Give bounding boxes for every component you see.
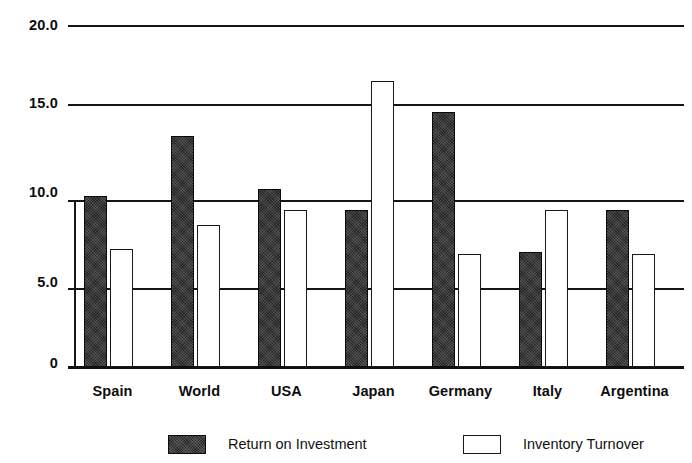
bar-argentina-roi bbox=[606, 210, 629, 367]
bar-world-turnover bbox=[197, 225, 220, 367]
bar-argentina-turnover bbox=[632, 254, 655, 367]
bar-germany-roi bbox=[432, 112, 455, 367]
chart-legend: Return on Investment Inventory Turnover bbox=[0, 432, 692, 458]
x-tick-label-italy: Italy bbox=[504, 384, 591, 399]
bar-japan-turnover bbox=[371, 81, 394, 367]
legend-swatch-icon-return-on-investment bbox=[168, 435, 206, 454]
x-tick-label-argentina: Argentina bbox=[591, 384, 678, 399]
legend-label-inventory-turnover: Inventory Turnover bbox=[523, 437, 644, 452]
x-tick-label-usa: USA bbox=[243, 384, 330, 399]
x-tick-label-spain: Spain bbox=[69, 384, 156, 399]
bar-germany-turnover bbox=[458, 254, 481, 367]
legend-label-return-on-investment: Return on Investment bbox=[228, 437, 367, 452]
x-tick-label-world: World bbox=[156, 384, 243, 399]
bar-spain-turnover bbox=[110, 249, 133, 367]
bar-italy-turnover bbox=[545, 210, 568, 367]
bar-usa-turnover bbox=[284, 210, 307, 367]
legend-item-inventory-turnover: Inventory Turnover bbox=[463, 432, 644, 456]
bar-world-roi bbox=[171, 136, 194, 367]
legend-item-return-on-investment: Return on Investment bbox=[168, 432, 367, 456]
bar-chart: 20.0 15.0 10.0 5.0 0 SpainWorldUSAJapanG… bbox=[0, 0, 692, 463]
bar-usa-roi bbox=[258, 189, 281, 367]
bar-japan-roi bbox=[345, 210, 368, 367]
x-tick-label-japan: Japan bbox=[330, 384, 417, 399]
legend-swatch-icon-inventory-turnover bbox=[463, 435, 501, 454]
bar-italy-roi bbox=[519, 252, 542, 367]
bar-spain-roi bbox=[84, 196, 107, 367]
x-tick-label-germany: Germany bbox=[417, 384, 504, 399]
